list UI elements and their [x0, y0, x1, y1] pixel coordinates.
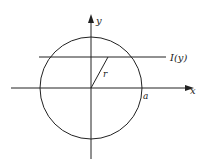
y-axis-label: y [95, 15, 102, 26]
circle-diagram: y x I(y) r a [0, 0, 204, 165]
y-axis-arrow-icon [88, 14, 94, 23]
radius-label: r [103, 69, 108, 79]
x-axis-label: x [190, 85, 196, 96]
intercept-label: a [143, 91, 148, 101]
chord-label: I(y) [169, 52, 188, 63]
